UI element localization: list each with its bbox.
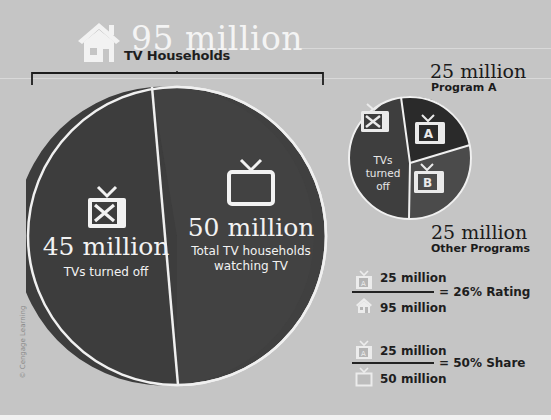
- tv-off-icon: [86, 185, 128, 230]
- tv-program-a-icon: A: [355, 270, 373, 290]
- total-households-label: TV Households: [0, 48, 354, 63]
- watching-tv-label-line2: watching TV: [182, 259, 320, 274]
- rating-denominator: 95 million: [380, 301, 447, 315]
- svg-text:A: A: [361, 350, 366, 358]
- bracket: [31, 71, 324, 85]
- house-icon: [355, 297, 373, 314]
- label-line: off: [355, 180, 411, 193]
- share-numerator: 25 million: [380, 344, 447, 358]
- watching-tv-value: 50 million: [182, 213, 320, 242]
- rating-result: = 26% Rating: [439, 285, 530, 299]
- other-programs-value: 25 million: [431, 221, 527, 243]
- small-tvs-off-label: TVs turned off: [355, 154, 411, 193]
- share-denominator: 50 million: [380, 372, 447, 386]
- tv-program-a-icon: A: [355, 340, 373, 360]
- tv-on-icon: [355, 367, 373, 387]
- svg-text:A: A: [424, 127, 434, 141]
- label-line: turned: [355, 167, 411, 180]
- watching-tv-label-line1: Total TV households: [182, 244, 320, 259]
- fraction-bar: [352, 291, 434, 293]
- fraction-bar: [352, 362, 434, 364]
- share-result: = 50% Share: [439, 356, 525, 370]
- svg-text:B: B: [423, 176, 432, 190]
- copyright-notice: © Cengage Learning: [19, 297, 27, 387]
- tvs-off-value: 45 million: [36, 232, 176, 261]
- tvs-off-label: TVs turned off: [36, 265, 176, 280]
- label-line: TVs: [355, 154, 411, 167]
- program-a-value: 25 million: [430, 60, 526, 82]
- tv-on-icon: [226, 158, 276, 206]
- rating-numerator: 25 million: [380, 271, 447, 285]
- bottom-strip: [0, 415, 551, 420]
- svg-text:A: A: [361, 280, 366, 288]
- other-programs-label: Other Programs: [431, 242, 530, 255]
- program-a-label: Program A: [431, 81, 497, 94]
